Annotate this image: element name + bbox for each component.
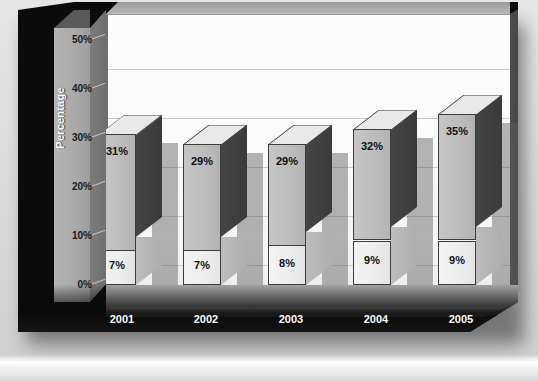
bar-lower-label-2004: 9%	[353, 254, 391, 266]
y-tick-label-10: 10%	[58, 230, 92, 241]
page-background: 31% 7% 29% 7%	[0, 0, 538, 381]
x-label-2002: 2002	[176, 313, 236, 325]
y-tick-label-50: 50%	[58, 34, 92, 45]
bar-lower-label-2002: 7%	[183, 259, 221, 271]
bar-upper-label-2005: 35%	[438, 125, 476, 137]
bar-side-upper-2001	[136, 115, 162, 237]
y-axis-title: Percentage	[54, 58, 66, 178]
x-label-2005: 2005	[431, 313, 491, 325]
y-tick-label-20: 20%	[58, 181, 92, 192]
bar-lower-label-2001: 7%	[98, 259, 136, 271]
chart-frame: 31% 7% 29% 7%	[18, 2, 518, 332]
y-axis-top-bevel	[54, 10, 90, 30]
bar-upper-label-2001: 31%	[98, 145, 136, 157]
bar-side-upper-2005	[476, 95, 502, 227]
bar-side-upper-2004	[391, 110, 417, 227]
x-label-2001: 2001	[92, 313, 152, 325]
gridline-40	[108, 69, 510, 70]
bar-upper-label-2003: 29%	[268, 155, 306, 167]
x-label-2003: 2003	[261, 313, 321, 325]
bar-upper-label-2004: 32%	[353, 140, 391, 152]
bar-lower-label-2005: 9%	[438, 254, 476, 266]
bar-upper-label-2002: 29%	[183, 155, 221, 167]
bar-lower-label-2003: 8%	[268, 257, 306, 269]
y-tick-label-0: 0%	[58, 279, 92, 290]
x-label-2004: 2004	[346, 313, 406, 325]
